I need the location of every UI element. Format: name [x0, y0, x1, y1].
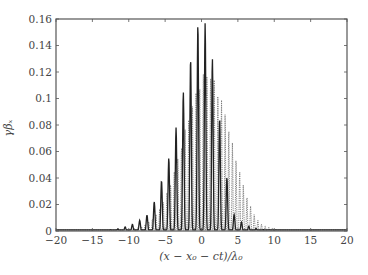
y-tick-label: 0.12 — [29, 66, 52, 78]
x-tick-label: 0 — [198, 234, 205, 246]
y-tick-label: 0.06 — [29, 145, 53, 157]
dotted-series-line — [56, 74, 347, 230]
x-tick-label: 15 — [304, 234, 317, 246]
x-tick-label: 10 — [268, 234, 281, 246]
x-tick-label: 20 — [340, 234, 353, 246]
x-tick-label: −5 — [157, 234, 172, 246]
y-tick-label: 0.1 — [35, 92, 52, 104]
y-tick-label: 0.14 — [29, 39, 53, 51]
x-tick-label: −10 — [118, 234, 140, 246]
y-tick-label: 0.08 — [29, 119, 52, 131]
x-tick-label: 5 — [235, 234, 242, 246]
x-tick-label: −15 — [81, 234, 103, 246]
y-tick-label: 0 — [45, 225, 52, 237]
y-tick-label: 0.02 — [29, 198, 52, 210]
chart: −20−15−10−505101520 00.020.040.060.080.1… — [0, 0, 368, 275]
solid-series-line — [56, 23, 347, 230]
plot-frame — [56, 19, 347, 231]
y-tick-label: 0.04 — [29, 172, 53, 184]
y-tick-label: 0.16 — [29, 13, 53, 25]
y-axis-label: γβₓ — [2, 119, 15, 136]
x-axis-label: (x − x₀ − ct)/λ₀ — [159, 250, 243, 263]
